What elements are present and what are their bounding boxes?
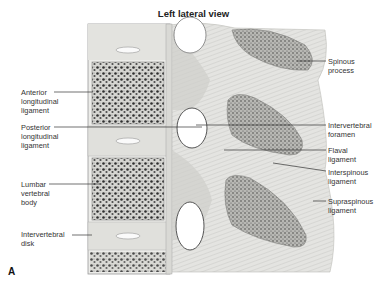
- label-interspinous-ligament: Interspinous ligament: [328, 168, 368, 186]
- upper-foramen: [174, 17, 206, 53]
- lower-vertebral-body: [92, 158, 164, 220]
- label-supraspinous-ligament: Supraspinous ligament: [328, 197, 373, 215]
- panel-letter: A: [8, 266, 15, 277]
- label-lumbar-vertebral-body: Lumbar vertebral body: [21, 180, 50, 207]
- label-spinous-process: Spinous process: [328, 57, 355, 75]
- intervertebral-foramen: [177, 108, 207, 148]
- lower-foramen: [176, 202, 204, 250]
- label-intervertebral-disk: Intervertebral disk: [21, 230, 65, 248]
- upper-vertebral-body: [92, 62, 164, 124]
- label-intervertebral-foramen: Intervertebral foramen: [328, 121, 372, 139]
- upper-disk: [88, 24, 170, 60]
- label-posterior-longitudinal-ligament: Posterior longitudinal ligament: [21, 123, 58, 150]
- label-anterior-longitudinal-ligament: Anterior longitudinal ligament: [21, 88, 58, 115]
- label-flaval-ligament: Flaval ligament: [328, 146, 356, 164]
